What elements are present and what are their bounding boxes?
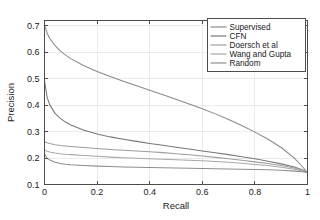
y-tick-label: 0.2 bbox=[27, 153, 40, 163]
y-tick-label: 0.1 bbox=[27, 180, 40, 190]
legend-label-doersch-et-al: Doersch et al bbox=[230, 41, 278, 50]
x-tick-label: 0.6 bbox=[196, 187, 209, 197]
chart-legend: SupervisedCFNDoersch et alWang and Gupta… bbox=[208, 19, 306, 72]
series-line-cfn bbox=[45, 81, 308, 173]
x-tick-label: 0.8 bbox=[249, 187, 262, 197]
x-tick-label: 0.4 bbox=[143, 187, 156, 197]
x-axis-title: Recall bbox=[163, 200, 189, 211]
legend-label-cfn: CFN bbox=[230, 32, 247, 41]
x-tick-label: 1 bbox=[305, 187, 310, 197]
x-tick-label: 0.2 bbox=[91, 187, 104, 197]
precision-recall-chart: 00.20.40.60.810.10.20.30.40.50.60.7Recal… bbox=[0, 0, 320, 220]
y-tick-label: 0.6 bbox=[27, 47, 40, 57]
y-tick-label: 0.4 bbox=[27, 100, 40, 110]
legend-label-supervised: Supervised bbox=[230, 23, 271, 32]
legend-label-random: Random bbox=[230, 59, 261, 68]
x-tick-label: 0 bbox=[42, 187, 47, 197]
legend-label-wang-and-gupta: Wang and Gupta bbox=[230, 50, 292, 59]
y-tick-label: 0.3 bbox=[27, 127, 40, 137]
y-tick-label: 0.7 bbox=[27, 21, 40, 31]
precision-recall-figure: 00.20.40.60.810.10.20.30.40.50.60.7Recal… bbox=[0, 0, 320, 220]
y-axis-title: Precision bbox=[5, 83, 16, 122]
y-tick-label: 0.5 bbox=[27, 74, 40, 84]
